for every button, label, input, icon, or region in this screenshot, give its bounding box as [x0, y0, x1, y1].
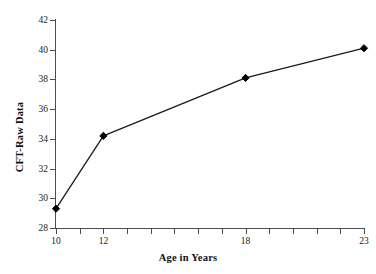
x-axis-tick	[103, 229, 104, 234]
x-axis-tick-label: 10	[44, 236, 68, 247]
y-axis-tick-label: 30	[26, 193, 48, 203]
y-axis-tick-label: 28	[26, 223, 48, 233]
x-axis-tick	[80, 229, 81, 234]
y-axis-tick	[50, 139, 55, 140]
y-axis-tick	[50, 228, 55, 229]
x-axis-tick	[340, 229, 341, 234]
y-axis-tick-label: 42	[26, 15, 48, 25]
chart-container: CFT-Raw Data 283032343638404210121823 Ag…	[0, 0, 376, 274]
y-axis-tick	[50, 79, 55, 80]
x-axis-tick-label: 12	[91, 236, 115, 247]
y-axis-tick-label: 40	[26, 45, 48, 55]
x-axis-tick	[269, 229, 270, 234]
data-point-marker	[242, 74, 249, 81]
x-axis-tick	[56, 229, 57, 234]
data-point-marker	[360, 45, 367, 52]
y-axis-tick	[50, 109, 55, 110]
y-axis-tick	[50, 169, 55, 170]
x-axis-tick	[293, 229, 294, 234]
y-axis-tick	[50, 198, 55, 199]
y-axis-tick-label: 36	[26, 104, 48, 114]
x-axis-tick	[151, 229, 152, 234]
y-axis-tick-label: 34	[26, 134, 48, 144]
x-axis-tick	[364, 229, 365, 234]
x-axis-tick-label: 23	[352, 236, 376, 247]
y-axis-line	[55, 19, 56, 229]
x-axis-tick	[198, 229, 199, 234]
data-point-marker	[100, 132, 107, 139]
y-axis-tick-label: 32	[26, 164, 48, 174]
x-axis-tick	[246, 229, 247, 234]
y-axis-tick	[50, 50, 55, 51]
x-axis-tick	[222, 229, 223, 234]
series-markers	[52, 45, 367, 213]
y-axis-tick	[50, 20, 55, 21]
x-axis-tick	[174, 229, 175, 234]
x-axis-tick	[127, 229, 128, 234]
x-axis-tick-label: 18	[234, 236, 258, 247]
y-axis-tick-label: 38	[26, 74, 48, 84]
data-point-marker	[52, 205, 59, 212]
x-axis-title: Age in Years	[0, 252, 376, 263]
x-axis-tick	[317, 229, 318, 234]
series-line	[56, 48, 364, 208]
x-axis-line	[55, 228, 365, 229]
